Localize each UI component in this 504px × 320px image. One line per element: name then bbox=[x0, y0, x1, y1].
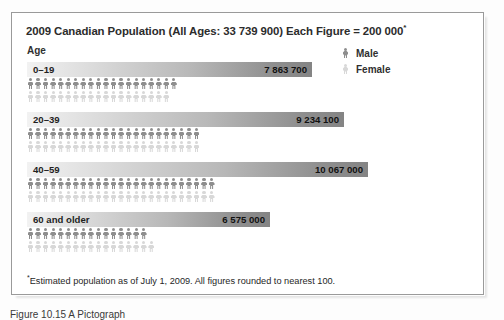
male-figure-icon bbox=[163, 78, 170, 89]
female-figure-icon bbox=[110, 191, 117, 202]
male-figure-icon bbox=[42, 178, 49, 189]
female-figure-icon bbox=[110, 241, 117, 252]
male-figure-icon bbox=[87, 178, 94, 189]
female-figure-icon bbox=[65, 91, 72, 102]
male-figure-icon bbox=[118, 78, 125, 89]
male-figure-icon bbox=[42, 78, 49, 89]
female-figure-icon bbox=[133, 191, 140, 202]
male-figure-icon bbox=[118, 128, 125, 139]
female-figure-icon bbox=[133, 91, 140, 102]
legend-item-male: Male bbox=[342, 46, 462, 60]
age-group-value: 7 863 700 bbox=[264, 64, 307, 75]
male-figure-icon bbox=[163, 128, 170, 139]
female-figure-icon bbox=[72, 141, 79, 152]
male-figure-icon bbox=[342, 48, 349, 59]
male-figure-icon bbox=[50, 128, 57, 139]
female-figure-icon bbox=[148, 91, 155, 102]
male-figure-row bbox=[27, 78, 471, 90]
male-figure-icon bbox=[87, 128, 94, 139]
male-figure-icon bbox=[102, 228, 109, 239]
age-group-bar: 60 and older6 575 000 bbox=[27, 212, 270, 227]
footnote-text: Estimated population as of July 1, 2009.… bbox=[30, 276, 335, 286]
male-figure-icon bbox=[42, 128, 49, 139]
female-figure-icon bbox=[57, 191, 64, 202]
female-figure-icon bbox=[27, 141, 34, 152]
male-figure-icon bbox=[57, 128, 64, 139]
female-figure-icon bbox=[80, 91, 87, 102]
age-group-value: 9 234 100 bbox=[296, 114, 339, 125]
male-figure-icon bbox=[148, 128, 155, 139]
male-figure-icon bbox=[133, 228, 140, 239]
age-column-header: Age bbox=[27, 45, 46, 56]
female-figure-row bbox=[27, 191, 471, 203]
female-figure-icon bbox=[140, 241, 147, 252]
female-figure-icon bbox=[87, 91, 94, 102]
female-figure-icon bbox=[170, 191, 177, 202]
male-figure-icon bbox=[65, 78, 72, 89]
female-figure-icon bbox=[42, 191, 49, 202]
female-figure-icon bbox=[148, 241, 155, 252]
male-figure-icon bbox=[178, 128, 185, 139]
male-figure-icon bbox=[118, 178, 125, 189]
male-figure-icon bbox=[27, 178, 34, 189]
male-figure-icon bbox=[42, 228, 49, 239]
male-figure-icon bbox=[110, 78, 117, 89]
age-group-value: 6 575 000 bbox=[222, 214, 265, 225]
female-figure-icon bbox=[72, 91, 79, 102]
male-figure-icon bbox=[170, 128, 177, 139]
male-figure-row bbox=[27, 228, 471, 240]
male-figure-icon bbox=[65, 228, 72, 239]
female-figure-icon bbox=[57, 91, 64, 102]
male-figure-icon bbox=[118, 228, 125, 239]
male-figure-row bbox=[27, 128, 471, 140]
male-figure-icon bbox=[163, 178, 170, 189]
female-figure-icon bbox=[72, 191, 79, 202]
female-figure-icon bbox=[50, 141, 57, 152]
age-group-bar: 0–197 863 700 bbox=[27, 62, 312, 77]
female-figure-icon bbox=[95, 91, 102, 102]
male-figure-icon bbox=[140, 78, 147, 89]
female-figure-icon bbox=[118, 91, 125, 102]
male-figure-icon bbox=[27, 78, 34, 89]
female-figure-icon bbox=[185, 141, 192, 152]
female-figure-row bbox=[27, 141, 471, 153]
male-figure-icon bbox=[170, 178, 177, 189]
female-figure-icon bbox=[57, 141, 64, 152]
title-asterisk: * bbox=[403, 23, 406, 32]
female-figure-icon bbox=[208, 191, 215, 202]
male-figure-icon bbox=[155, 178, 162, 189]
female-figure-icon bbox=[102, 141, 109, 152]
female-figure-icon bbox=[27, 241, 34, 252]
female-figure-icon bbox=[148, 141, 155, 152]
male-figure-icon bbox=[72, 178, 79, 189]
female-figure-icon bbox=[193, 191, 200, 202]
age-group-label: 20–39 bbox=[33, 114, 60, 125]
female-figure-icon bbox=[102, 191, 109, 202]
age-group-bar: 40–5910 067 000 bbox=[27, 162, 368, 177]
male-figure-icon bbox=[155, 128, 162, 139]
figure-title-text: 2009 Canadian Population (All Ages: 33 7… bbox=[26, 25, 403, 37]
age-group-2: 20–399 234 100 bbox=[27, 112, 471, 153]
male-figure-icon bbox=[72, 228, 79, 239]
male-figure-icon bbox=[95, 228, 102, 239]
female-figure-row bbox=[27, 91, 471, 103]
female-figure-icon bbox=[118, 191, 125, 202]
male-figure-icon bbox=[102, 78, 109, 89]
male-figure-icon bbox=[65, 128, 72, 139]
female-figure-icon bbox=[65, 241, 72, 252]
male-figure-icon bbox=[185, 178, 192, 189]
female-figure-icon bbox=[140, 191, 147, 202]
legend-label-male: Male bbox=[356, 48, 378, 59]
male-figure-icon bbox=[125, 78, 132, 89]
female-figure-icon bbox=[102, 91, 109, 102]
figure-caption: Figure 10.15 A Pictograph bbox=[10, 309, 125, 320]
age-group-label: 0–19 bbox=[33, 64, 54, 75]
male-figure-icon bbox=[170, 78, 177, 89]
female-figure-icon bbox=[201, 191, 208, 202]
female-figure-icon bbox=[163, 191, 170, 202]
male-figure-icon bbox=[133, 78, 140, 89]
male-figure-icon bbox=[72, 78, 79, 89]
female-figure-icon bbox=[163, 141, 170, 152]
female-figure-icon bbox=[80, 141, 87, 152]
male-figure-icon bbox=[35, 128, 42, 139]
